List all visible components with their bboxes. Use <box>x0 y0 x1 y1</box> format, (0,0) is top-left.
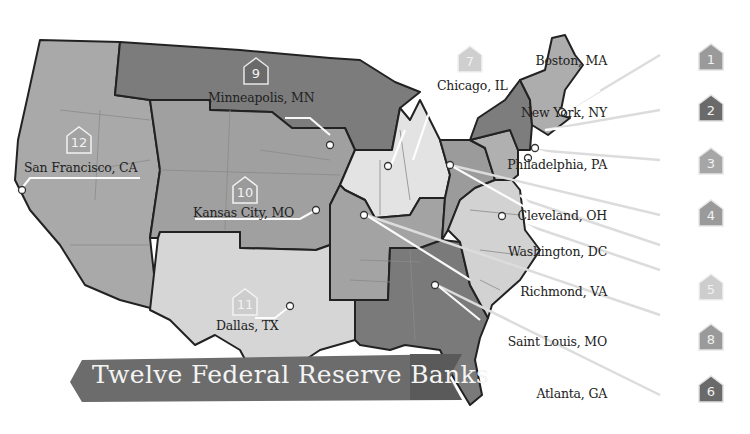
atlanta-label: Atlanta, GA <box>536 386 607 401</box>
district-8-badge[interactable]: 8 <box>696 322 726 352</box>
richmond-dot <box>499 213 506 220</box>
district-2-badge[interactable]: 2 <box>696 93 726 123</box>
kansas-city-label: Kansas City, MO <box>193 205 294 220</box>
chicago-dot <box>385 163 392 170</box>
washington-label: Washington, DC <box>508 244 607 259</box>
district-5-badge[interactable]: 5 <box>696 272 726 302</box>
cleveland-dot <box>447 162 454 169</box>
chicago-label: Chicago, IL <box>437 78 508 93</box>
district-10-badge[interactable]: 10 <box>230 175 260 205</box>
dallas-dot <box>287 303 294 310</box>
kansas-city-dot <box>313 207 320 214</box>
philadelphia-label: Philadelphia, PA <box>507 157 607 172</box>
district-7-badge[interactable]: 7 <box>455 44 485 74</box>
district-6-badge[interactable]: 6 <box>696 374 726 404</box>
st-louis-dot <box>361 212 368 219</box>
title-banner: Twelve Federal Reserve Banks <box>70 352 462 404</box>
district-4-badge[interactable]: 4 <box>696 198 726 228</box>
district-9-badge[interactable]: 9 <box>241 56 271 86</box>
cleveland-label: Cleveland, OH <box>518 208 607 223</box>
district-11-badge[interactable]: 11 <box>230 287 260 317</box>
st-louis-label: Saint Louis, MO <box>508 334 607 349</box>
atlanta-dot <box>432 282 439 289</box>
san-francisco-label: San Francisco, CA <box>24 160 137 175</box>
new-york-dot <box>532 145 539 152</box>
district-12-badge[interactable]: 12 <box>64 125 94 155</box>
map-title: Twelve Federal Reserve Banks <box>92 360 489 389</box>
minneapolis-label: Minneapolis, MN <box>208 90 314 105</box>
dallas-label: Dallas, TX <box>216 318 279 333</box>
san-francisco-dot <box>19 187 26 194</box>
boston-label: Boston, MA <box>536 53 608 68</box>
district-3-badge[interactable]: 3 <box>696 146 726 176</box>
minneapolis-dot <box>327 142 334 149</box>
richmond-label: Richmond, VA <box>520 284 607 299</box>
new-york-label: New York, NY <box>521 105 607 120</box>
district-1-badge[interactable]: 1 <box>696 42 726 72</box>
